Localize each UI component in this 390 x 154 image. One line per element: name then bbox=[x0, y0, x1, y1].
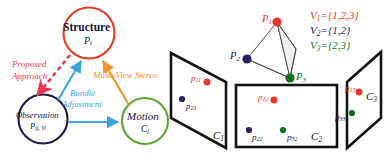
edge-label-bundle-adjustment-line1: Bundle bbox=[70, 89, 95, 98]
visibility-set-V1-value: ={1,2,3} bbox=[320, 9, 358, 21]
visibility-set-V3: V3={2,3} bbox=[310, 40, 350, 52]
visibility-set-V3-name: V bbox=[310, 39, 317, 51]
node-motion-subscript: Cj bbox=[141, 125, 149, 135]
visibility-set-V2-value: ={1,2} bbox=[320, 24, 350, 36]
node-observation-sub-index: ij, Vi bbox=[35, 125, 46, 131]
projection-label-p11-index: 11 bbox=[196, 77, 202, 83]
projection-label-p13-index: 13 bbox=[350, 87, 356, 93]
projection-point-p12[interactable] bbox=[271, 97, 278, 104]
node-observation-subscript: Pij, Vi bbox=[30, 123, 46, 132]
camera-label-C2-index: 2 bbox=[318, 135, 322, 144]
world-point-P3[interactable] bbox=[285, 73, 294, 82]
node-observation-title: Observation bbox=[16, 111, 59, 120]
world-point-label-P2-index: 2 bbox=[236, 55, 240, 63]
projection-label-p33: p33 bbox=[335, 113, 346, 122]
projection-label-p32: p32 bbox=[287, 133, 298, 142]
projection-point-p11[interactable] bbox=[204, 79, 211, 86]
projection-label-p11: p11 bbox=[191, 74, 201, 83]
projection-point-p32[interactable] bbox=[280, 127, 286, 133]
projection-point-p33[interactable] bbox=[349, 110, 355, 116]
projection-label-p33-index: 33 bbox=[340, 116, 346, 122]
projection-label-p22: p22 bbox=[252, 133, 263, 142]
node-structure-title: Structure bbox=[63, 22, 110, 34]
node-structure-sub-index: i bbox=[90, 39, 92, 46]
edge-label-proposed-approach-line2: Approach bbox=[12, 72, 47, 81]
camera-label-C2: C2 bbox=[311, 131, 322, 143]
tetra-edge-bottom bbox=[247, 59, 290, 78]
tetra-face-shaded bbox=[277, 22, 296, 78]
world-point-label-P2: P2 bbox=[230, 51, 240, 63]
projection-label-p22-index: 22 bbox=[257, 136, 263, 142]
projection-label-p32-index: 32 bbox=[292, 136, 298, 142]
projection-label-p12-index: 12 bbox=[263, 96, 269, 102]
world-point-label-P1-index: 1 bbox=[268, 18, 272, 26]
visibility-set-V2: V2={1,2} bbox=[310, 25, 350, 37]
camera-label-C1: C1 bbox=[213, 130, 224, 142]
visibility-set-V2-name: V bbox=[310, 24, 317, 36]
figure-root: Structure Pi Observation Pij, Vi Motion … bbox=[0, 0, 390, 154]
projection-label-p13: p13 bbox=[345, 84, 356, 93]
visibility-set-V1: V1={1,2,3} bbox=[310, 10, 359, 22]
projection-label-p21: p21 bbox=[186, 102, 197, 111]
node-motion-sub-index: j bbox=[147, 127, 149, 134]
projection-point-p21[interactable] bbox=[179, 96, 185, 102]
visibility-set-V3-value: ={2,3} bbox=[320, 39, 350, 51]
projection-point-p13[interactable] bbox=[356, 89, 363, 96]
visibility-set-V1-name: V bbox=[310, 9, 317, 21]
world-point-label-P3-index: 3 bbox=[302, 76, 306, 84]
world-point-P2[interactable] bbox=[242, 54, 251, 63]
edge-multi-view-stereo-arrow bbox=[103, 61, 129, 105]
node-structure-subscript: Pi bbox=[84, 36, 92, 47]
camera-label-C3-index: 3 bbox=[373, 95, 377, 104]
world-point-label-P1: P1 bbox=[262, 14, 272, 26]
projection-label-p12: p12 bbox=[258, 93, 269, 102]
camera-label-C3: C3 bbox=[366, 91, 377, 103]
edge-label-proposed-approach-line1: Proposed bbox=[12, 60, 46, 69]
camera-label-C1-index: 1 bbox=[220, 134, 224, 143]
edge-label-multi-view-stereo: Multi-View Stereo bbox=[93, 71, 158, 80]
edge-label-bundle-adjustment-line2: Adjustment bbox=[62, 100, 102, 109]
world-point-P1[interactable] bbox=[272, 17, 281, 26]
projection-label-p21-index: 21 bbox=[191, 105, 197, 111]
world-point-label-P3: P3 bbox=[296, 72, 306, 84]
node-motion-title: Motion bbox=[127, 111, 159, 122]
